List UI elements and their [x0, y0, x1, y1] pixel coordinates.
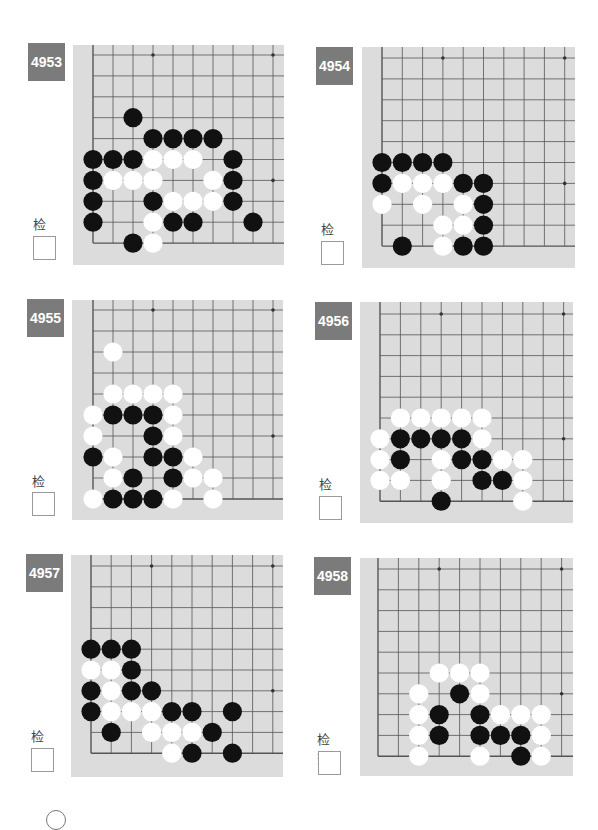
black-stone — [81, 681, 100, 700]
star-point — [563, 56, 567, 60]
white-stone — [142, 702, 161, 721]
white-stone — [432, 471, 451, 490]
black-stone — [391, 429, 410, 448]
white-stone — [433, 174, 452, 193]
black-stone — [493, 471, 512, 490]
white-stone — [163, 405, 182, 424]
black-stone — [122, 640, 141, 659]
white-stone — [370, 450, 389, 469]
white-stone — [162, 744, 181, 763]
black-stone — [122, 681, 141, 700]
black-stone — [143, 129, 162, 148]
black-stone — [83, 192, 102, 211]
black-stone — [83, 150, 102, 169]
problem-number-badge: 4955 — [27, 299, 64, 337]
white-stone — [470, 684, 489, 703]
white-stone — [454, 195, 473, 214]
white-stone — [470, 663, 489, 682]
check-checkbox[interactable] — [33, 236, 56, 260]
white-stone — [372, 195, 391, 214]
black-stone — [83, 171, 102, 190]
white-stone — [203, 171, 222, 190]
white-stone — [143, 384, 162, 403]
white-stone — [142, 723, 161, 742]
white-stone — [411, 408, 430, 427]
black-stone — [163, 447, 182, 466]
black-stone — [123, 489, 142, 508]
star-point — [271, 179, 275, 183]
black-stone — [223, 192, 242, 211]
white-stone — [163, 384, 182, 403]
go-board[interactable] — [72, 300, 283, 520]
white-stone — [182, 723, 201, 742]
star-point — [271, 689, 275, 693]
black-stone — [123, 468, 142, 487]
white-stone — [103, 447, 122, 466]
star-point — [271, 434, 275, 438]
white-stone — [432, 408, 451, 427]
white-stone — [103, 342, 122, 361]
black-stone — [123, 405, 142, 424]
white-stone — [432, 450, 451, 469]
white-stone — [452, 408, 471, 427]
black-stone — [474, 237, 493, 256]
white-stone — [450, 663, 469, 682]
go-board[interactable] — [360, 558, 573, 776]
black-stone — [81, 640, 100, 659]
go-board[interactable] — [71, 555, 283, 777]
black-stone — [223, 171, 242, 190]
black-stone — [411, 429, 430, 448]
star-point — [271, 564, 275, 568]
black-stone — [223, 702, 242, 721]
white-stone — [143, 171, 162, 190]
black-stone — [474, 195, 493, 214]
star-point — [562, 312, 566, 316]
black-stone — [143, 405, 162, 424]
white-stone — [370, 429, 389, 448]
star-point — [151, 53, 155, 57]
black-stone — [183, 213, 202, 232]
check-checkbox[interactable] — [31, 748, 54, 772]
white-stone — [532, 705, 551, 724]
black-stone — [413, 153, 432, 172]
go-board[interactable] — [360, 302, 573, 523]
white-stone — [81, 660, 100, 679]
check-checkbox[interactable] — [321, 241, 344, 265]
white-stone — [203, 468, 222, 487]
black-stone — [123, 108, 142, 127]
problem-number-badge: 4954 — [316, 47, 353, 85]
black-stone — [223, 744, 242, 763]
white-stone — [203, 489, 222, 508]
black-stone — [103, 405, 122, 424]
black-stone — [162, 702, 181, 721]
black-stone — [391, 450, 410, 469]
black-stone — [470, 705, 489, 724]
black-stone — [372, 174, 391, 193]
go-board[interactable] — [73, 45, 284, 265]
black-stone — [452, 429, 471, 448]
star-point — [441, 56, 445, 60]
check-checkbox[interactable] — [318, 751, 341, 775]
black-stone — [83, 213, 102, 232]
problem-number-badge: 4957 — [26, 554, 63, 592]
black-stone — [143, 192, 162, 211]
white-stone — [470, 747, 489, 766]
black-stone — [454, 174, 473, 193]
white-stone — [409, 726, 428, 745]
star-point — [439, 312, 443, 316]
black-stone — [142, 681, 161, 700]
black-stone — [470, 726, 489, 745]
black-stone — [163, 468, 182, 487]
go-board[interactable] — [362, 47, 575, 268]
check-checkbox[interactable] — [319, 496, 342, 520]
white-stone — [103, 171, 122, 190]
black-stone — [203, 723, 222, 742]
white-stone — [409, 684, 428, 703]
problem-number-badge: 4958 — [314, 557, 351, 595]
white-stone — [413, 195, 432, 214]
black-stone — [103, 150, 122, 169]
black-stone — [491, 726, 510, 745]
white-stone — [123, 171, 142, 190]
check-checkbox[interactable] — [32, 492, 55, 516]
white-stone — [103, 384, 122, 403]
